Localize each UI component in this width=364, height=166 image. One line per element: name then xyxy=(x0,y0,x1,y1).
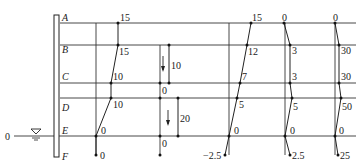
row-label-d: D xyxy=(61,102,70,113)
d4-value-c: 3 xyxy=(292,71,297,82)
row-label-b: B xyxy=(62,44,68,55)
row-label-c: C xyxy=(62,71,69,82)
row-labels: A B C D E F xyxy=(61,12,70,162)
diagram-5: 0 30 30 50 0 25 xyxy=(333,12,352,161)
water-level-label: 0 xyxy=(5,131,10,142)
d4-value-d: 5 xyxy=(293,101,298,112)
d5-value-b: 30 xyxy=(341,45,351,56)
d3-value-f: −2.5 xyxy=(203,150,221,161)
d1-value-f: 0 xyxy=(100,150,105,161)
d4-value-f: 2.5 xyxy=(292,150,305,161)
d1-value-c: 10 xyxy=(113,71,123,82)
d3-value-a: 15 xyxy=(252,12,262,23)
arrow-down-icon xyxy=(161,56,165,72)
d5-value-f: 25 xyxy=(340,150,350,161)
pressure-diagram: A B C D E F 0 15 15 10 10 0 0 xyxy=(0,0,364,166)
d5-value-a: 0 xyxy=(333,12,338,23)
d1-value-e: 0 xyxy=(101,125,106,136)
water-level-marker: 0 xyxy=(5,129,41,142)
row-label-a: A xyxy=(61,12,69,23)
d4-value-e: 0 xyxy=(290,125,295,136)
d3-value-d: 5 xyxy=(239,99,244,110)
d1-value-b: 15 xyxy=(119,46,129,57)
row-label-f: F xyxy=(61,151,69,162)
diagram-2: 10 0 20 0 xyxy=(159,44,191,157)
d4-value-a: 0 xyxy=(282,12,287,23)
d4-value-b: 3 xyxy=(292,45,297,56)
d2-value-c0: 0 xyxy=(162,85,167,96)
d3-value-c: 7 xyxy=(242,71,247,82)
diagram-1: 15 15 10 10 0 0 xyxy=(95,12,131,161)
d5-value-c: 30 xyxy=(341,71,351,82)
d2-value-e0: 0 xyxy=(162,138,167,149)
arrow-down-icon xyxy=(166,110,170,126)
row-label-e: E xyxy=(61,125,68,136)
d3-value-e: 0 xyxy=(234,125,239,136)
d2-value-bc: 10 xyxy=(171,60,181,71)
water-table-triangle-icon xyxy=(31,129,41,140)
d2-value-de: 20 xyxy=(180,113,190,124)
diagram-3: 15 12 7 5 0 −2.5 xyxy=(203,12,262,161)
diagram-4: 0 3 3 5 0 2.5 xyxy=(282,12,305,161)
d5-value-e: 0 xyxy=(339,125,344,136)
d1-value-a: 15 xyxy=(120,12,130,23)
d1-value-d: 10 xyxy=(113,99,123,110)
sheet-pile-wall xyxy=(54,15,59,157)
d5-value-d: 50 xyxy=(342,101,352,112)
d3-value-b: 12 xyxy=(248,46,258,57)
